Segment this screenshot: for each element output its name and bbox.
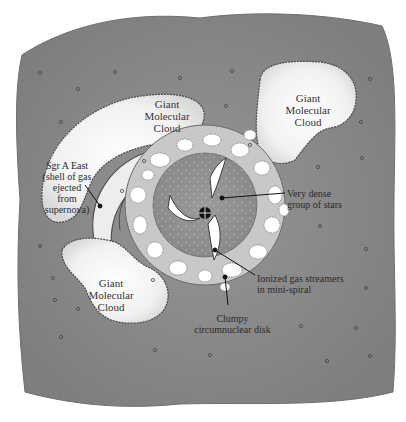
label-ionized-gas-streamers: Ionized gas streamers in mini-spiral [257, 273, 387, 295]
black-hole-crosshair-icon [199, 207, 211, 219]
label-sgr-a-east: Sgr A East (shell of gas ejected from su… [34, 160, 100, 215]
label-clumpy-circumnuclear-disk: Clumpy circumnuclear disk [180, 313, 285, 335]
label-giant-molecular-cloud-top-right: Giant Molecular Cloud [273, 92, 343, 128]
label-giant-molecular-cloud-top-left: Giant Molecular Cloud [132, 98, 202, 134]
label-very-dense-group-of-stars: Very dense group of stars [287, 188, 387, 210]
label-giant-molecular-cloud-bottom-left: Giant Molecular Cloud [76, 277, 146, 313]
